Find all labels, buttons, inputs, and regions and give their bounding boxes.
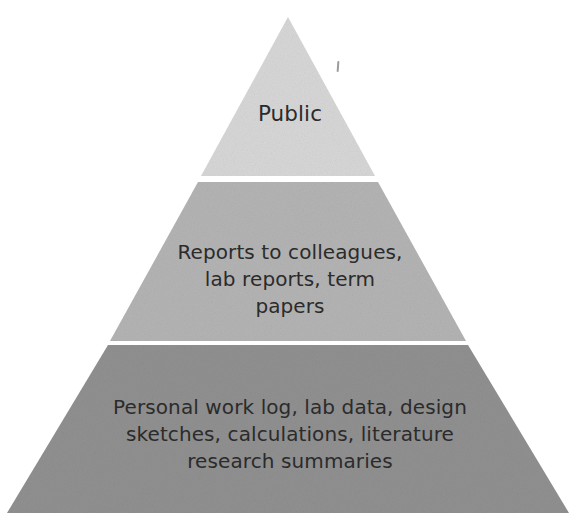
pyramid-tier-personal-label: Personal work log, lab data, design sket… <box>0 394 580 475</box>
pyramid-tier-personal: Personal work log, lab data, design sket… <box>0 0 580 531</box>
pyramid-diagram: Public Reports to colleagues, lab report… <box>0 0 580 531</box>
